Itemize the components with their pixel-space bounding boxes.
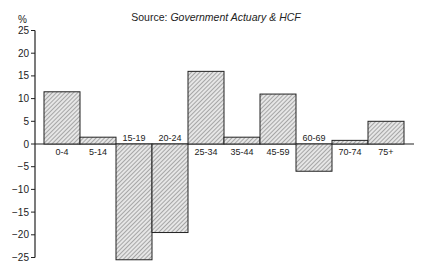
bar-45-59 bbox=[260, 94, 296, 144]
y-tick-label: 10 bbox=[18, 93, 30, 104]
bar-60-69 bbox=[296, 144, 332, 171]
y-tick-label: −10 bbox=[12, 184, 29, 195]
x-category-label: 0-4 bbox=[55, 147, 68, 157]
x-category-label: 75+ bbox=[378, 147, 393, 157]
bar-75+ bbox=[368, 121, 404, 144]
x-category-label: 25-34 bbox=[194, 147, 217, 157]
bar-chart: %2520151050−5−10−15−20−25 0-45-1415-1920… bbox=[0, 0, 432, 270]
x-category-label: 20-24 bbox=[158, 133, 181, 143]
x-category-label: 60-69 bbox=[302, 133, 325, 143]
bar-15-19 bbox=[116, 144, 152, 260]
x-category-label: 5-14 bbox=[89, 147, 107, 157]
bar-35-44 bbox=[224, 137, 260, 144]
y-tick-label: −15 bbox=[12, 207, 29, 218]
bar-25-34 bbox=[188, 71, 224, 144]
bar-0-4 bbox=[44, 92, 80, 144]
y-tick-label: 25 bbox=[18, 25, 30, 36]
y-tick-label: 20 bbox=[18, 48, 30, 59]
bar-70-74 bbox=[332, 140, 368, 144]
x-category-label: 45-59 bbox=[266, 147, 289, 157]
x-category-label: 35-44 bbox=[230, 147, 253, 157]
x-category-label: 70-74 bbox=[338, 147, 361, 157]
y-tick-label: 0 bbox=[23, 139, 29, 150]
y-tick-label: 15 bbox=[18, 70, 30, 81]
bar-20-24 bbox=[152, 144, 188, 233]
y-tick-label: −5 bbox=[18, 161, 30, 172]
x-category-label: 15-19 bbox=[122, 133, 145, 143]
y-axis-unit-label: % bbox=[18, 14, 27, 25]
y-tick-label: −25 bbox=[12, 252, 29, 263]
bar-5-14 bbox=[80, 137, 116, 144]
y-tick-label: 5 bbox=[23, 116, 29, 127]
y-tick-label: −20 bbox=[12, 229, 29, 240]
